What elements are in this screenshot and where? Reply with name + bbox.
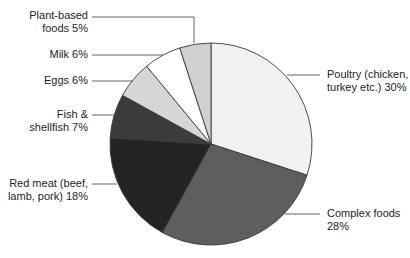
label-complex-line2: 28%	[327, 220, 400, 233]
label-redmeat: Red meat (beef, lamb, pork) 18%	[8, 177, 88, 203]
label-plant-line1: Plant-based	[29, 9, 88, 22]
label-fish: Fish & shellfish 7%	[29, 108, 88, 134]
label-complex: Complex foods 28%	[327, 207, 400, 233]
label-eggs: Eggs 6%	[44, 74, 88, 87]
label-poultry-line1: Poultry (chicken,	[327, 68, 408, 81]
pie-slices	[110, 43, 312, 245]
label-milk-line1: Milk 6%	[49, 48, 88, 61]
leader-line-plant	[92, 17, 194, 43]
label-plant-line2: foods 5%	[29, 22, 88, 35]
label-complex-line1: Complex foods	[327, 207, 400, 220]
label-redmeat-line1: Red meat (beef,	[8, 177, 88, 190]
label-plant: Plant-based foods 5%	[29, 9, 88, 35]
label-fish-line1: Fish &	[29, 108, 88, 121]
label-eggs-line1: Eggs 6%	[44, 74, 88, 87]
label-poultry-line2: turkey etc.) 30%	[327, 81, 408, 94]
label-fish-line2: shellfish 7%	[29, 121, 88, 134]
label-milk: Milk 6%	[49, 48, 88, 61]
label-poultry: Poultry (chicken, turkey etc.) 30%	[327, 68, 408, 94]
label-redmeat-line2: lamb, pork) 18%	[8, 190, 88, 203]
